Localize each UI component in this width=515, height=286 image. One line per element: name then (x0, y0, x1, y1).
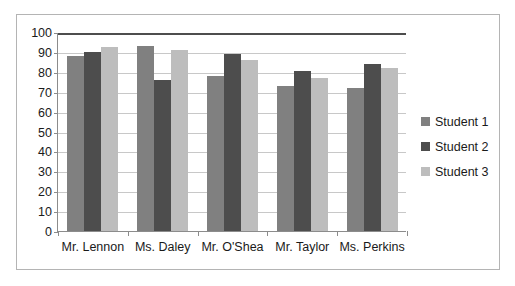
bar[interactable] (364, 64, 381, 231)
bar[interactable] (347, 88, 364, 231)
chart-legend: Student 1Student 2Student 3 (421, 109, 497, 184)
legend-label: Student 2 (435, 140, 489, 154)
y-axis-tick-label: 90 (38, 46, 52, 60)
bar[interactable] (241, 60, 258, 231)
bar[interactable] (84, 52, 101, 231)
bar-group (128, 33, 198, 231)
y-axis-tick-label: 30 (38, 165, 52, 179)
y-axis-tick-label: 70 (38, 86, 52, 100)
x-axis-tick-mark (198, 231, 199, 236)
y-axis-tick-label: 10 (38, 205, 52, 219)
x-axis-tick-mark (407, 231, 408, 236)
legend-swatch-icon (421, 167, 430, 176)
x-axis-category-label: Mr. Taylor (275, 240, 329, 254)
bar[interactable] (381, 68, 398, 231)
legend-label: Student 1 (435, 115, 489, 129)
plot-area: 1009080706050403020100 Mr. LennonMs. Dal… (57, 33, 406, 232)
bar[interactable] (294, 71, 311, 231)
y-axis-tick-label: 100 (31, 26, 52, 40)
x-axis-category-label: Ms. Daley (135, 240, 191, 254)
legend-label: Student 3 (435, 165, 489, 179)
bar[interactable] (67, 56, 84, 231)
chart-frame: 1009080706050403020100 Mr. LennonMs. Dal… (16, 14, 500, 270)
bar[interactable] (277, 86, 294, 231)
bar[interactable] (207, 76, 224, 231)
legend-item[interactable]: Student 2 (421, 134, 497, 159)
bar[interactable] (154, 80, 171, 231)
x-axis-tick-mark (337, 231, 338, 236)
y-axis-tick-label: 80 (38, 66, 52, 80)
y-axis-tick-label: 40 (38, 145, 52, 159)
y-axis-tick-label: 20 (38, 185, 52, 199)
y-axis-tick-label: 50 (38, 126, 52, 140)
x-axis-tick-mark (58, 231, 59, 236)
x-axis-category-label: Mr. O'Shea (201, 240, 263, 254)
bar[interactable] (101, 47, 118, 231)
bar[interactable] (137, 46, 154, 231)
x-axis-tick-mark (267, 231, 268, 236)
y-axis-tick-label: 0 (45, 225, 52, 239)
x-axis-category-label: Mr. Lennon (62, 240, 125, 254)
x-axis-tick-mark (128, 231, 129, 236)
bar[interactable] (171, 50, 188, 231)
bar[interactable] (311, 78, 328, 231)
legend-item[interactable]: Student 3 (421, 159, 497, 184)
legend-swatch-icon (421, 117, 430, 126)
bar[interactable] (224, 54, 241, 231)
bar-group (58, 33, 128, 231)
y-axis-tick-label: 60 (38, 106, 52, 120)
bar-group (198, 33, 268, 231)
legend-item[interactable]: Student 1 (421, 109, 497, 134)
legend-swatch-icon (421, 142, 430, 151)
x-axis-category-label: Ms. Perkins (339, 240, 404, 254)
bar-group (267, 33, 337, 231)
bar-group (337, 33, 407, 231)
